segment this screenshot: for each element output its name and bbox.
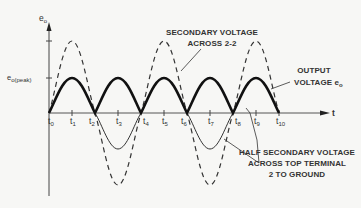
y-axis-label: eo [39,13,48,24]
tick-label-t1: t1 [70,116,76,127]
tick-label-t0: t0 [48,116,54,127]
tick-label-t7: t7 [208,116,214,127]
svg-text:OUTPUT: OUTPUT [297,66,331,75]
output-voltage-curve [49,78,279,113]
tick-labels: t0 t1 t2 t3 t4 t5 t6 t7 t8 t9 t10 [48,116,286,127]
annotation-half-secondary: HALF SECONDARY VOLTAGE ACROSS TOP TERMIN… [239,148,356,179]
peak-label: eo(peak) [7,73,32,83]
tick-label-t3: t3 [116,116,122,127]
tick-label-t10: t10 [276,116,286,127]
waveform-diagram: eo eo(peak) t t0 t1 t2 t3 t4 t5 t6 t7 t8… [0,0,361,208]
svg-text:2 TO GROUND: 2 TO GROUND [269,170,326,179]
svg-text:SECONDARY VOLTAGE: SECONDARY VOLTAGE [166,28,259,37]
tick-label-t2: t2 [89,116,95,127]
svg-text:HALF SECONDARY VOLTAGE: HALF SECONDARY VOLTAGE [239,148,356,157]
svg-text:VOLTAGE eo: VOLTAGE eo [294,78,343,88]
x-axis-label: t [332,108,335,118]
x-axis-arrow-icon [320,111,330,116]
annotation-secondary: SECONDARY VOLTAGE ACROSS 2-2 [166,28,259,48]
svg-text:ACROSS TOP TERMINAL: ACROSS TOP TERMINAL [248,159,346,168]
secondary-leader [181,49,201,71]
y-axis-arrow-icon [47,22,52,31]
tick-label-t4: t4 [143,116,149,127]
tick-label-t8: t8 [235,116,241,127]
annotation-output: OUTPUT VOLTAGE eo [294,66,343,88]
tick-label-t9: t9 [254,116,260,127]
output-leader [271,82,290,89]
tick-label-t6: t6 [181,116,187,127]
tick-label-t5: t5 [162,116,168,127]
svg-text:ACROSS 2-2: ACROSS 2-2 [187,39,236,48]
